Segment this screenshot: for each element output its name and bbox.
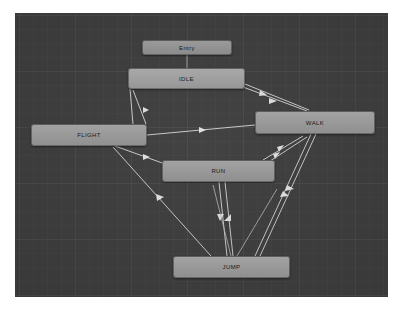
animator-window: .edge { stroke: #d6d6d6; stroke-width: 1…: [0, 0, 403, 312]
state-node-walk[interactable]: WALK: [255, 111, 375, 134]
transition-flight-to-walk[interactable]: [147, 125, 255, 135]
transition-idle-to-flight[interactable]: [130, 89, 149, 124]
state-label-run: RUN: [211, 168, 225, 174]
transition-idle-walk[interactable]: [243, 84, 309, 111]
state-node-idle[interactable]: IDLE: [128, 68, 245, 89]
transition-flight-to-run[interactable]: [115, 146, 165, 164]
transition-run-jump[interactable]: [217, 182, 233, 256]
state-node-jump[interactable]: JUMP: [173, 256, 290, 278]
state-label-idle: IDLE: [179, 76, 194, 82]
state-machine-canvas[interactable]: .edge { stroke: #d6d6d6; stroke-width: 1…: [15, 13, 388, 297]
state-label-entry: Entry: [179, 45, 195, 51]
transition-walk-jump[interactable]: [255, 134, 316, 256]
state-node-entry[interactable]: Entry: [142, 40, 232, 55]
transition-layer: .edge { stroke: #d6d6d6; stroke-width: 1…: [15, 13, 388, 297]
state-label-walk: WALK: [306, 120, 324, 126]
transition-walk-run[interactable]: [263, 136, 307, 163]
transition-jump-fan: [213, 185, 277, 256]
state-node-flight[interactable]: FLIGHT: [31, 124, 147, 146]
state-node-run[interactable]: RUN: [162, 160, 275, 182]
state-label-flight: FLIGHT: [77, 132, 101, 138]
state-label-jump: JUMP: [223, 264, 241, 270]
